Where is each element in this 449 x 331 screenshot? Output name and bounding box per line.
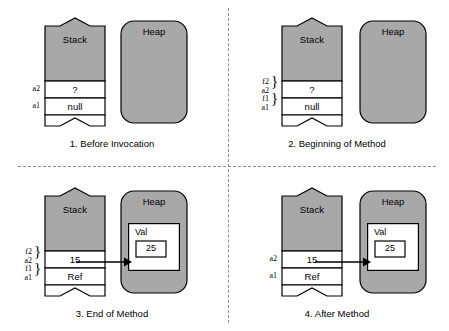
stack-cell-label-2-1b: a1 (253, 103, 269, 112)
stack-cell-label-3-1a: f1 (16, 264, 32, 273)
panel-1-caption: 1. Before Invocation (0, 138, 224, 149)
heap-object-name-3: Val (135, 227, 147, 237)
panel-1-stage: Stack ? null a2 a1 Heap (0, 0, 224, 140)
stack-cell-label-2-0a: f2 (253, 77, 269, 86)
stack-cell-label-4-0: a2 (261, 254, 277, 263)
stack-title-1: Stack (44, 34, 106, 45)
heap-title-2: Heap (359, 26, 427, 37)
stack-heap-diagram: Stack ? null a2 a1 Heap 1. Before Invoca… (0, 0, 449, 331)
stack-title-4: Stack (281, 204, 343, 215)
panel-4-stage: Stack 15 Ref a2 a1 Heap Val 25 (225, 170, 449, 310)
panel-after-method: Stack 15 Ref a2 a1 Heap Val 25 4. After … (225, 170, 449, 331)
stack-cell-value-2-0: ? (281, 84, 343, 95)
stack-cell-value-2-1: null (281, 101, 343, 112)
stack-cell-value-4-1: Ref (281, 271, 343, 282)
heap-title-1: Heap (120, 26, 188, 37)
heap-object-name-4: Val (374, 227, 386, 237)
reference-arrow-3 (76, 254, 132, 270)
stack-cell-label-2-1a: f1 (253, 94, 269, 103)
panel-end-of-method: Stack 15 Ref f2 a2 } f1 a1 } Heap Val 25 (0, 170, 224, 331)
stack-cell-label-3-1b: a1 (16, 273, 32, 282)
horizontal-divider (18, 166, 436, 167)
stack-brace-2-1: } (271, 91, 278, 106)
panel-before-invocation: Stack ? null a2 a1 Heap 1. Before Invoca… (0, 0, 224, 165)
panel-3-caption: 3. End of Method (0, 308, 224, 319)
stack-title-2: Stack (281, 34, 343, 45)
panel-4-caption: 4. After Method (225, 308, 449, 319)
stack-cell-label-3-0a: f2 (16, 247, 32, 256)
stack-cell-value-3-1: Ref (44, 271, 106, 282)
stack-cell-value-1-1: null (44, 101, 106, 112)
stack-cell-value-1-0: ? (44, 84, 106, 95)
stack-cell-label-1-1: a1 (24, 101, 40, 110)
panel-3-stage: Stack 15 Ref f2 a2 } f1 a1 } Heap Val 25 (0, 170, 224, 310)
stack-brace-3-0: } (34, 244, 41, 259)
heap-object-field-4: 25 (375, 243, 405, 253)
stack-brace-3-1: } (34, 261, 41, 276)
stack-cell-label-1-0: a2 (24, 84, 40, 93)
reference-arrow-4 (315, 254, 371, 270)
stack-brace-2-0: } (271, 74, 278, 89)
heap-title-3: Heap (120, 196, 188, 207)
stack-title-3: Stack (44, 204, 106, 215)
panel-2-caption: 2. Beginning of Method (225, 138, 449, 149)
heap-object-field-3: 25 (136, 243, 166, 253)
panel-2-stage: Stack ? null f2 a2 } f1 a1 } Heap (225, 0, 449, 140)
heap-title-4: Heap (359, 196, 427, 207)
panel-beginning-of-method: Stack ? null f2 a2 } f1 a1 } Heap 2. Beg… (225, 0, 449, 165)
stack-cell-label-4-1: a1 (261, 271, 277, 280)
